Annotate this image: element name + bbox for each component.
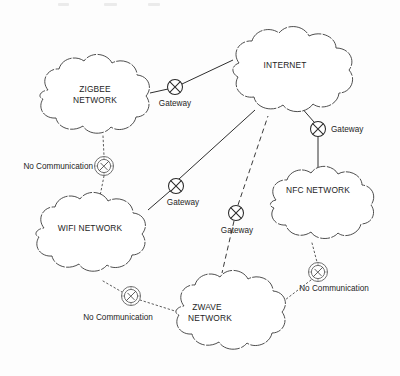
link-nfc-nocomm3 bbox=[312, 243, 317, 262]
link-gateway-internet-wifi bbox=[179, 110, 255, 179]
cloud-zwave-label-line1: ZWAVE bbox=[192, 302, 222, 312]
gateway-label-zigbee: Gateway bbox=[159, 99, 192, 108]
link-nocomm2-zwave bbox=[140, 300, 178, 312]
cloud-zwave-label-line2: NETWORK bbox=[188, 313, 232, 323]
clouds-layer: INTERNET ZIGBEE NETWORK WIFI NETWORK ZWA… bbox=[36, 27, 374, 350]
no-communication-label-wifi-zwave: No Communication bbox=[83, 313, 153, 322]
link-nocomm-wifi bbox=[100, 176, 104, 196]
cloud-wifi-label: WIFI NETWORK bbox=[58, 223, 123, 233]
network-diagram-canvas: INTERNET ZIGBEE NETWORK WIFI NETWORK ZWA… bbox=[0, 0, 400, 376]
no-communication-node-wifi-zwave[interactable]: No Communication bbox=[83, 287, 153, 323]
no-communication-label-nfc-zwave: No Communication bbox=[299, 284, 369, 293]
no-communication-node-zigbee-wifi[interactable]: No Communication bbox=[23, 157, 113, 176]
link-gateway-internet-zwave bbox=[238, 116, 268, 205]
link-zigbee-gateway bbox=[150, 89, 168, 93]
gateway-label-zwave: Gateway bbox=[221, 226, 254, 235]
cloud-zwave[interactable]: ZWAVE NETWORK bbox=[176, 270, 286, 349]
gateway-label-nfc: Gateway bbox=[331, 125, 364, 134]
cloud-wifi[interactable]: WIFI NETWORK bbox=[36, 192, 146, 271]
gateway-node-zwave[interactable]: Gateway bbox=[221, 206, 254, 236]
gateway-label-wifi: Gateway bbox=[167, 198, 200, 207]
cloud-zigbee-label-line2: NETWORK bbox=[73, 95, 117, 105]
link-zigbee-nocomm bbox=[103, 136, 104, 156]
gateway-node-wifi[interactable]: Gateway bbox=[167, 179, 200, 208]
gateway-node-zigbee[interactable]: Gateway bbox=[159, 80, 192, 109]
cloud-internet[interactable]: INTERNET bbox=[233, 27, 353, 112]
no-communication-node-nfc-zwave[interactable]: No Communication bbox=[299, 263, 369, 294]
cloud-internet-label: INTERNET bbox=[263, 60, 306, 70]
no-communication-label-zigbee-wifi: No Communication bbox=[23, 162, 93, 171]
cloud-nfc[interactable]: NFC NETWORK bbox=[270, 166, 373, 238]
gateway-node-nfc[interactable]: Gateway bbox=[311, 122, 365, 137]
cloud-nfc-outline bbox=[270, 166, 373, 238]
cloud-nfc-label: NFC NETWORK bbox=[286, 185, 350, 195]
cloud-zigbee-label-line1: ZIGBEE bbox=[79, 84, 111, 94]
cloud-zigbee[interactable]: ZIGBEE NETWORK bbox=[40, 54, 150, 133]
network-topology-svg: INTERNET ZIGBEE NETWORK WIFI NETWORK ZWA… bbox=[0, 0, 400, 376]
link-gateway-internet-zigbee bbox=[182, 60, 233, 84]
link-wifi-nocomm2 bbox=[103, 281, 122, 292]
